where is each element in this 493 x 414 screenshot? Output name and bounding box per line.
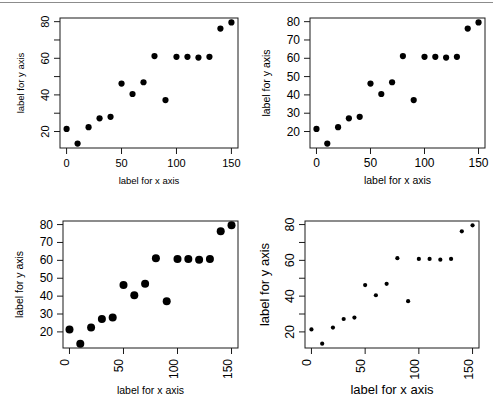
y-axis-title: label for y axis <box>260 49 272 116</box>
data-point <box>87 324 95 332</box>
data-point <box>118 80 124 86</box>
data-point <box>76 340 84 348</box>
data-point <box>228 221 236 229</box>
data-point <box>346 115 352 121</box>
data-point <box>162 97 168 103</box>
x-tick-label: 100 <box>408 359 422 380</box>
y-tick-label: 50 <box>40 271 54 285</box>
y-tick-label: 80 <box>287 15 301 29</box>
data-point <box>195 54 201 60</box>
y-tick-label: 20 <box>39 125 51 137</box>
data-point <box>475 19 481 25</box>
y-axis-title: label for y axis <box>13 251 25 318</box>
scatter-panel-top-right: 05010015020304050607080label for x axisl… <box>247 0 493 207</box>
data-point <box>173 54 179 60</box>
data-point <box>184 255 192 263</box>
x-tick-label: 100 <box>414 156 434 170</box>
y-tick-label: 20 <box>287 125 301 139</box>
y-tick-label: 40 <box>283 289 297 303</box>
data-point <box>406 299 410 303</box>
x-tick-label: 50 <box>354 359 368 373</box>
x-tick-label: 0 <box>300 359 314 366</box>
x-tick-label: 50 <box>115 157 127 169</box>
scatter-panel-bottom-left: 05010015020304050607080label for x axisl… <box>0 207 246 414</box>
data-point <box>465 26 471 32</box>
y-axis-title: label for y axis <box>257 242 272 326</box>
y-tick-label: 30 <box>40 307 54 321</box>
data-point <box>342 317 346 321</box>
data-point <box>324 141 330 147</box>
data-point <box>427 257 431 261</box>
x-tick-label: 150 <box>222 157 240 169</box>
data-point <box>335 124 341 130</box>
y-tick-label: 60 <box>39 52 51 64</box>
data-point <box>443 54 449 60</box>
x-axis-title: label for x axis <box>364 174 431 186</box>
y-tick-label: 60 <box>40 253 54 267</box>
y-tick-label: 20 <box>283 325 297 339</box>
data-point <box>395 256 399 260</box>
data-point <box>119 281 127 289</box>
x-tick-label: 100 <box>167 359 181 379</box>
data-point <box>432 54 438 60</box>
x-tick-label: 50 <box>364 156 378 170</box>
x-axis-title: label for x axis <box>117 384 184 396</box>
data-point <box>411 97 417 103</box>
y-tick-label: 50 <box>287 70 301 84</box>
data-point <box>163 297 171 305</box>
data-point <box>385 282 389 286</box>
data-point <box>357 114 363 120</box>
data-point <box>438 258 442 262</box>
y-tick-label: 70 <box>40 235 54 249</box>
data-point <box>417 257 421 261</box>
data-point <box>449 257 453 261</box>
y-tick-label: 70 <box>287 33 301 47</box>
data-point <box>320 342 324 346</box>
x-tick-label: 0 <box>64 157 70 169</box>
data-point <box>217 26 223 32</box>
scatter-panel-top-left: 05010015020406080label for x axislabel f… <box>0 0 246 207</box>
y-tick-label: 40 <box>39 89 51 101</box>
scatter-panel-bottom-right: 05010015020406080label for x axislabel f… <box>247 207 493 414</box>
data-point <box>107 114 113 120</box>
data-point <box>65 325 73 333</box>
y-tick-label: 80 <box>283 218 297 232</box>
data-point <box>470 223 474 227</box>
data-point <box>217 227 225 235</box>
data-point <box>63 126 69 132</box>
x-axis-title: label for x axis <box>350 382 434 397</box>
y-tick-label: 30 <box>287 106 301 120</box>
data-point <box>174 255 182 263</box>
data-point <box>309 327 313 331</box>
data-point <box>140 79 146 85</box>
data-point <box>400 53 406 59</box>
data-point <box>152 254 160 262</box>
plot-frame <box>305 221 479 348</box>
x-tick-label: 150 <box>469 156 489 170</box>
x-tick-label: 0 <box>58 359 72 366</box>
y-tick-label: 60 <box>283 253 297 267</box>
x-tick-label: 0 <box>313 156 320 170</box>
data-point <box>367 80 373 86</box>
data-point <box>421 54 427 60</box>
data-point <box>389 79 395 85</box>
data-point <box>195 256 203 264</box>
data-point <box>313 126 319 132</box>
data-point <box>184 54 190 60</box>
x-tick-label: 150 <box>462 359 476 380</box>
x-axis-title: label for x axis <box>119 175 180 186</box>
data-point <box>96 115 102 121</box>
data-point <box>129 91 135 97</box>
data-point <box>352 315 356 319</box>
data-point <box>109 314 117 322</box>
data-point <box>331 326 335 330</box>
data-point <box>85 124 91 130</box>
data-point <box>74 141 80 147</box>
x-tick-label: 150 <box>221 359 235 379</box>
data-point <box>374 293 378 297</box>
scatter-plot-grid: 05010015020406080label for x axislabel f… <box>0 0 493 414</box>
data-point <box>98 315 106 323</box>
x-tick-label: 100 <box>167 157 185 169</box>
data-point <box>460 229 464 233</box>
data-point <box>454 54 460 60</box>
